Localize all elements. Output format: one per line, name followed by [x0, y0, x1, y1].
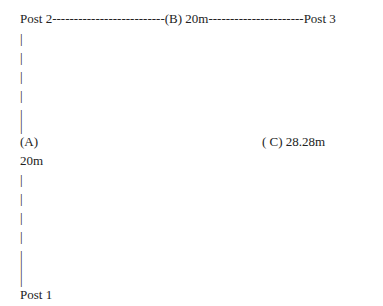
vertical-bar: | — [20, 170, 23, 189]
vertical-bar: | — [20, 67, 23, 86]
vertical-bar: | — [20, 48, 23, 67]
vertical-bar: | — [20, 208, 23, 227]
vertical-bar: | — [20, 189, 23, 208]
vertical-bar: | — [20, 29, 23, 48]
side-a-label: (A) — [20, 132, 38, 151]
vertical-bar: | — [20, 227, 23, 246]
post-1-label: Post 1 — [20, 285, 52, 304]
top-side-post2-to-post3: Post 2--------------------------(B) 20m-… — [20, 9, 336, 28]
side-c-label: ( C) 28.28m — [262, 132, 325, 151]
side-a-length: 20m — [20, 151, 43, 170]
vertical-bar: | — [20, 86, 23, 105]
